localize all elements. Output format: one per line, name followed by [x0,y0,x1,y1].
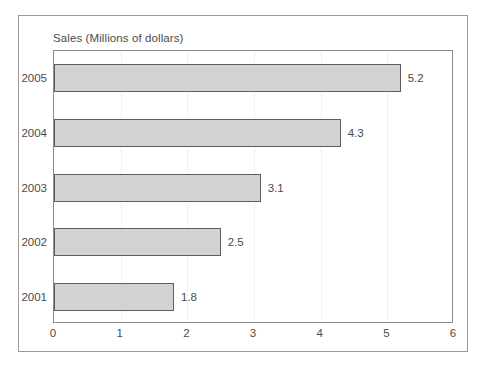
plot-area: 20055.220044.320033.120022.520011.8 [53,50,453,323]
category-label: 2005 [21,72,47,84]
x-tick-label: 5 [383,327,389,339]
category-label: 2003 [21,182,47,194]
category-label: 2004 [21,127,47,139]
bar[interactable] [54,64,401,92]
category-label: 2001 [21,291,47,303]
bar[interactable] [54,228,221,256]
bar-row: 20044.3 [54,119,454,147]
x-tick-label: 3 [250,327,256,339]
bar-row: 20011.8 [54,283,454,311]
bar-value-label: 3.1 [268,182,284,194]
x-tick-label: 1 [116,327,122,339]
chart-figure: Sales (Millions of dollars) 20055.220044… [18,15,468,352]
bar-row: 20055.2 [54,64,454,92]
bar-row: 20033.1 [54,174,454,202]
bar-value-label: 4.3 [348,127,364,139]
bar-value-label: 5.2 [408,72,424,84]
x-tick-label: 6 [450,327,456,339]
x-tick-label: 0 [50,327,56,339]
bar[interactable] [54,283,174,311]
category-label: 2002 [21,236,47,248]
bar-value-label: 2.5 [228,236,244,248]
bar[interactable] [54,119,341,147]
chart-title: Sales (Millions of dollars) [53,32,184,44]
bar-row: 20022.5 [54,228,454,256]
x-tick-label: 2 [183,327,189,339]
x-tick-label: 4 [316,327,322,339]
bar-value-label: 1.8 [181,291,197,303]
bar[interactable] [54,174,261,202]
